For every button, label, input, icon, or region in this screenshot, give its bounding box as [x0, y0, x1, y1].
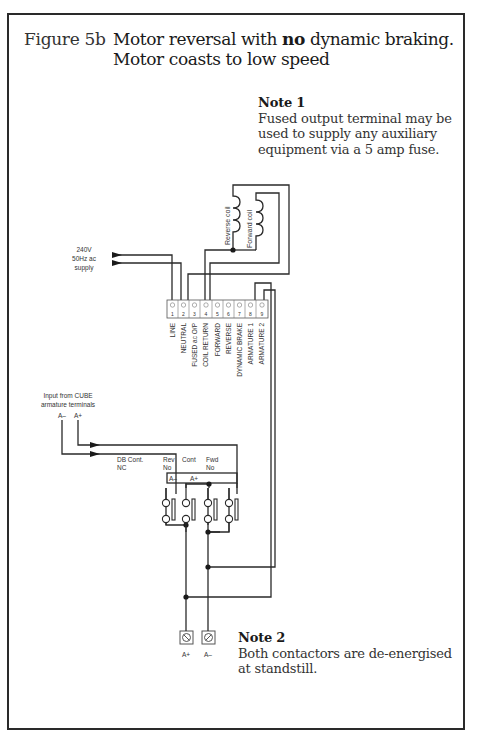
- input-label: Input from CUBE armature terminals A– A+: [41, 392, 96, 419]
- terminal-number-7: 7: [238, 311, 241, 317]
- reverse-coil-label: Reverse coil: [224, 206, 231, 245]
- svg-text:A+: A+: [190, 475, 198, 482]
- input-a-minus: A–: [58, 412, 66, 419]
- terminal-number-9: 9: [261, 311, 264, 317]
- terminal-number-8: 8: [249, 311, 252, 317]
- svg-text:Fwd: Fwd: [206, 456, 219, 463]
- terminal-number-2: 2: [182, 311, 185, 317]
- motor-terminal-a-plus-label: A+: [182, 651, 190, 658]
- motor-terminal-a-minus-icon: [202, 631, 215, 644]
- terminal-number-1: 1: [171, 311, 174, 317]
- contactor-labels: DB Cont. NC Rev No Cont Fwd No A– A+: [117, 456, 219, 482]
- terminal-label-coil-return: COIL RETURN: [202, 323, 209, 367]
- terminal-label-neutral: NEUTRAL: [180, 323, 187, 354]
- svg-text:50Hz ac: 50Hz ac: [72, 255, 97, 262]
- svg-text:Rev: Rev: [163, 456, 175, 463]
- input-a-plus: A+: [74, 412, 82, 419]
- svg-text:supply: supply: [75, 264, 95, 272]
- forward-coil-icon: [256, 194, 263, 250]
- input-arrows-icon: [90, 442, 100, 457]
- svg-text:NC: NC: [117, 464, 127, 471]
- terminal-label-armature-1: ARMATURE 1: [247, 323, 254, 365]
- terminal-number-5: 5: [216, 311, 219, 317]
- reverse-coil-icon: [233, 186, 240, 250]
- svg-text:240V: 240V: [76, 246, 92, 253]
- svg-text:No: No: [206, 464, 215, 471]
- svg-text:armature terminals: armature terminals: [41, 401, 96, 408]
- svg-text:DB Cont.: DB Cont.: [117, 456, 144, 463]
- supply-label: 240V 50Hz ac supply: [72, 246, 97, 272]
- terminal-label-armature-2: ARMATURE 2: [258, 323, 265, 365]
- supply-arrows-icon: [112, 252, 122, 266]
- svg-text:No: No: [163, 464, 172, 471]
- terminal-strip: 1 2 3 4 5 6 7 8 9 LINE NEUTRAL FUSED ac …: [167, 300, 268, 377]
- terminal-label-fused-ac-op: FUSED ac O/P: [191, 323, 198, 367]
- svg-text:Input from CUBE: Input from CUBE: [43, 392, 93, 400]
- terminal-number-3: 3: [193, 311, 196, 317]
- contactor-contacts-icon: [162, 499, 238, 523]
- terminal-number-4: 4: [205, 311, 208, 317]
- svg-text:Cont: Cont: [182, 456, 196, 463]
- svg-text:A–: A–: [169, 475, 177, 482]
- terminal-label-line: LINE: [169, 322, 176, 337]
- terminal-label-reverse: REVERSE: [225, 322, 232, 354]
- terminal-number-6: 6: [227, 311, 230, 317]
- forward-coil-label: Forward coil: [246, 209, 253, 248]
- wiring-diagram: 1 2 3 4 5 6 7 8 9 LINE NEUTRAL FUSED ac …: [0, 0, 484, 747]
- motor-terminal-a-plus-icon: [180, 631, 193, 644]
- terminal-label-dynamic-brake: DYNAMIC BRAKE: [236, 322, 243, 376]
- terminal-label-forward: FORWARD: [214, 323, 221, 357]
- motor-terminal-a-minus-label: A–: [204, 651, 212, 658]
